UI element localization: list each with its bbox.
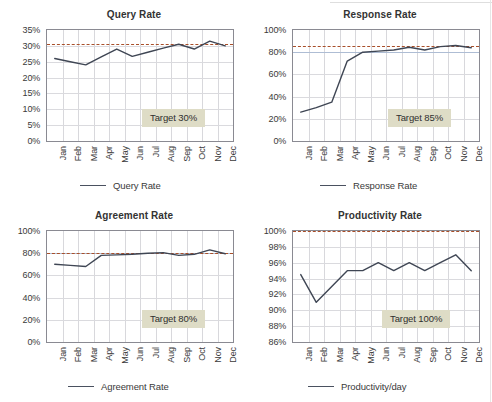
series-line-response-rate: [293, 30, 479, 141]
y-tick-label: 100%: [18, 226, 40, 236]
legend-swatch-icon: [308, 386, 334, 387]
x-tick-label: Nov: [213, 146, 223, 162]
x-tick-label: Aug: [412, 146, 422, 162]
y-tick-label: 0%: [27, 136, 40, 146]
y-tick-label: 96%: [269, 258, 286, 268]
legend-label-productivity-rate: Productivity/day: [341, 381, 406, 392]
y-tick-label: 98%: [269, 242, 286, 252]
y-tick-label: 90%: [269, 305, 286, 315]
x-tick-label: Mar: [89, 347, 99, 362]
series-line-query-rate: [47, 30, 233, 141]
legend-productivity-rate: Productivity/day: [308, 381, 406, 392]
x-tick-label: Aug: [412, 347, 422, 363]
y-tick-label: 5%: [27, 120, 40, 130]
chart-title-agreement-rate: Agreement Rate: [0, 210, 246, 221]
x-tick-label: May: [120, 347, 130, 364]
legend-swatch-icon: [320, 185, 346, 186]
x-tick-label: May: [366, 146, 376, 163]
x-tick-label: Jul: [151, 146, 161, 157]
x-tick-label: Sep: [182, 146, 192, 162]
y-tick-label: 80%: [269, 47, 286, 57]
x-tick-label: Feb: [319, 146, 329, 161]
x-tick-label: Mar: [89, 146, 99, 161]
y-tick-label: 60%: [23, 270, 40, 280]
x-axis-productivity-rate: JanFebMarAprMayJunJulAugSepOctNovDec: [292, 347, 480, 375]
x-tick-label: Nov: [459, 146, 469, 162]
x-tick-label: May: [120, 146, 130, 163]
x-tick-label: Aug: [166, 146, 176, 162]
x-tick-label: Feb: [73, 347, 83, 362]
chart-title-query-rate: Query Rate: [0, 9, 246, 20]
y-tick-label: 15%: [23, 88, 40, 98]
target-badge-query-rate: Target 30%: [142, 109, 205, 127]
x-tick-label: Sep: [428, 146, 438, 162]
x-tick-label: Nov: [459, 347, 469, 363]
x-tick-label: Sep: [428, 347, 438, 363]
plot-frame-agreement-rate: [46, 230, 234, 343]
x-tick-label: Apr: [350, 347, 360, 361]
plot-frame-response-rate: [292, 29, 480, 142]
chart-title-productivity-rate: Productivity Rate: [246, 210, 492, 221]
chart-title-response-rate: Response Rate: [246, 9, 492, 20]
x-tick-label: Nov: [213, 347, 223, 363]
x-tick-label: Jun: [381, 146, 391, 160]
x-tick-label: Dec: [228, 146, 238, 162]
target-badge-response-rate: Target 85%: [388, 109, 451, 127]
x-tick-label: Apr: [104, 146, 114, 160]
y-axis-query-rate: 0%5%10%15%20%25%30%35%: [6, 29, 40, 142]
x-axis-response-rate: JanFebMarAprMayJunJulAugSepOctNovDec: [292, 146, 480, 174]
x-tick-label: Jan: [304, 146, 314, 160]
y-axis-productivity-rate: 86%88%90%92%94%96%98%100%: [248, 230, 286, 343]
x-tick-label: Jun: [381, 347, 391, 361]
x-tick-label: Feb: [73, 146, 83, 161]
x-tick-label: Sep: [182, 347, 192, 363]
legend-agreement-rate: Agreement Rate: [68, 381, 169, 392]
y-tick-label: 0%: [273, 136, 286, 146]
y-tick-label: 25%: [23, 57, 40, 67]
legend-swatch-icon: [68, 386, 94, 387]
target-badge-agreement-rate: Target 80%: [142, 310, 205, 328]
x-tick-label: Aug: [166, 347, 176, 363]
x-tick-label: Jan: [58, 347, 68, 361]
y-tick-label: 100%: [264, 25, 286, 35]
y-tick-label: 92%: [269, 289, 286, 299]
x-tick-label: Jul: [397, 146, 407, 157]
x-tick-label: Jun: [135, 347, 145, 361]
y-tick-label: 30%: [23, 41, 40, 51]
x-tick-label: Jun: [135, 146, 145, 160]
legend-label-query-rate: Query Rate: [113, 180, 161, 191]
x-tick-label: Jan: [58, 146, 68, 160]
x-tick-label: Jul: [151, 347, 161, 358]
y-tick-label: 86%: [269, 337, 286, 347]
target-badge-productivity-rate: Target 100%: [382, 310, 450, 328]
x-tick-label: Oct: [443, 146, 453, 160]
plot-frame-query-rate: [46, 29, 234, 142]
dashboard-grid: Query Rate 0%5%10%15%20%25%30%35% Target…: [0, 0, 492, 402]
x-tick-label: Dec: [474, 146, 484, 162]
y-tick-label: 20%: [269, 114, 286, 124]
x-tick-label: Apr: [350, 146, 360, 160]
x-axis-query-rate: JanFebMarAprMayJunJulAugSepOctNovDec: [46, 146, 234, 174]
plot-area-agreement-rate: Target 80%: [46, 230, 234, 343]
y-tick-label: 0%: [27, 337, 40, 347]
y-tick-label: 100%: [264, 226, 286, 236]
legend-response-rate: Response Rate: [320, 180, 417, 191]
chart-panel-agreement-rate: Agreement Rate 0%20%40%60%80%100% Target…: [0, 201, 246, 402]
y-axis-agreement-rate: 0%20%40%60%80%100%: [2, 230, 40, 343]
x-tick-label: Oct: [197, 146, 207, 160]
legend-label-agreement-rate: Agreement Rate: [101, 381, 169, 392]
plot-area-productivity-rate: Target 100%: [292, 230, 480, 343]
x-tick-label: Dec: [228, 347, 238, 363]
y-axis-response-rate: 0%20%40%60%80%100%: [248, 29, 286, 142]
series-line-agreement-rate: [47, 231, 233, 342]
plot-area-query-rate: Target 30%: [46, 29, 234, 142]
x-tick-label: Jul: [397, 347, 407, 358]
x-tick-label: Dec: [474, 347, 484, 363]
y-tick-label: 60%: [269, 69, 286, 79]
x-tick-label: Oct: [443, 347, 453, 361]
x-tick-label: Mar: [335, 347, 345, 362]
legend-swatch-icon: [80, 185, 106, 186]
x-tick-label: Apr: [104, 347, 114, 361]
y-tick-label: 35%: [23, 25, 40, 35]
x-tick-label: Feb: [319, 347, 329, 362]
